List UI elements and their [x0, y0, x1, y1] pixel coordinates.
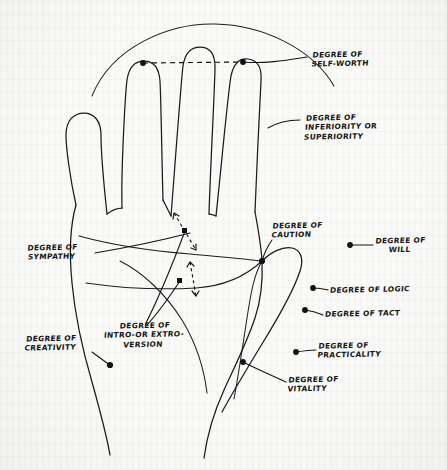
hand-outline-little-finger	[66, 113, 107, 214]
leader-introversion-lower	[147, 281, 180, 325]
label-logic: DEGREE OF LOGIC	[329, 284, 410, 295]
lower-span-arrow	[177, 262, 199, 296]
palmistry-diagram: DEGREE OF SELF-WORTH DEGREE OF INFERIORI…	[0, 0, 447, 470]
leader-inferiority	[268, 120, 300, 128]
label-tact: DEGREE OF TACT	[324, 308, 400, 319]
vitality-dot	[240, 359, 246, 365]
leader-caution	[262, 240, 272, 261]
leader-creativity	[92, 352, 110, 365]
label-introversion: DEGREE OF INTRO-OR EXTRO- VERSION	[102, 320, 185, 350]
creativity-dot	[107, 362, 113, 368]
label-vitality: DEGREE OF VITALITY	[287, 375, 339, 395]
label-inferiority: DEGREE OF INFERIORITY OR SUPERIORITY	[303, 112, 378, 142]
tact-dot	[302, 307, 308, 313]
label-will: DEGREE OF WILL	[374, 236, 426, 256]
fingertip-index-dot	[140, 60, 146, 66]
hand-web-little-index	[107, 208, 122, 214]
hand-web-index-middle	[163, 200, 171, 216]
palm-line-heart	[79, 236, 262, 261]
practicality-dot	[293, 349, 299, 355]
label-practicality: DEGREE OF PRACTICALITY	[317, 340, 382, 360]
diagram-artwork	[0, 0, 447, 470]
logic-dot	[310, 285, 316, 291]
fingertip-ring-dot	[240, 59, 246, 65]
fingertip-span-dashed-line	[143, 62, 243, 63]
palm-line-head	[86, 261, 262, 289]
hand-outline-index-finger	[122, 61, 163, 208]
leader-vitality	[243, 362, 286, 382]
label-creativity: DEGREE OF CREATIVITY	[24, 334, 78, 354]
palm-edge-dot	[259, 258, 265, 264]
leader-introversion-upper	[146, 231, 185, 323]
label-sympathy: DEGREE OF SYMPATHY	[26, 243, 78, 263]
fingertip-arc	[92, 24, 334, 96]
label-caution: DEGREE OF CAUTION	[271, 221, 323, 241]
hand-outline-middle-finger	[171, 47, 215, 216]
will-dot	[347, 242, 353, 248]
hand-web-middle-ring	[209, 214, 216, 216]
leader-practicality	[296, 350, 316, 352]
label-self-worth: DEGREE OF SELF-WORTH	[311, 49, 370, 69]
hand-outline-right-edge	[204, 212, 262, 458]
palm-line-fate	[234, 261, 262, 399]
hand-outline-ring-finger	[216, 59, 261, 216]
